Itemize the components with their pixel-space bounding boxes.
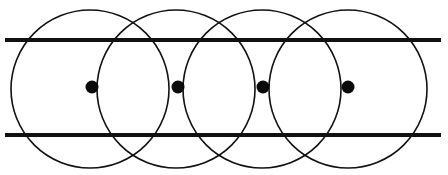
dot-group (86, 81, 355, 94)
center-dot-3 (257, 81, 270, 94)
center-dot-4 (342, 81, 355, 94)
circle-group (11, 10, 427, 168)
center-dot-1 (86, 81, 99, 94)
figure-canvas (0, 0, 448, 175)
overlapping-circles-diagram (0, 0, 448, 175)
center-dot-2 (172, 81, 185, 94)
line-group (5, 40, 441, 135)
